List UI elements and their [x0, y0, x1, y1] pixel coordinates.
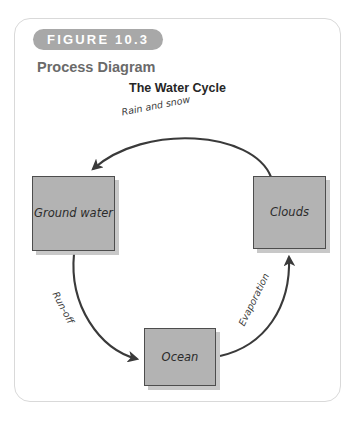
node-ocean: Ocean [144, 328, 216, 386]
node-ground-water-label: Ground water [34, 206, 113, 220]
arrow-run-off [73, 254, 137, 359]
node-clouds-label: Clouds [270, 205, 309, 219]
node-clouds: Clouds [253, 176, 326, 249]
node-ocean-label: Ocean [162, 350, 199, 364]
figure-panel: FIGURE 10.3 Process Diagram The Water Cy… [14, 18, 341, 402]
arrow-rain-and-snow [93, 138, 271, 177]
node-ground-water: Ground water [32, 176, 115, 251]
